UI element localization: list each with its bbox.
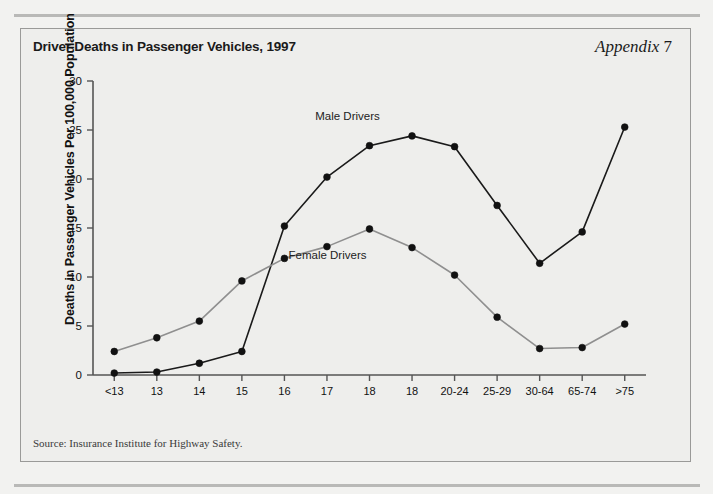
data-point-marker bbox=[366, 142, 373, 149]
appendix-word: Appendix bbox=[595, 37, 659, 56]
x-axis-tick-label: 17 bbox=[321, 385, 333, 397]
line-chart: Deaths in Passenger Vehicles Per 100,000… bbox=[21, 65, 692, 421]
data-point-marker bbox=[366, 226, 373, 233]
data-point-marker bbox=[536, 345, 543, 352]
chart-panel: Driver Deaths in Passenger Vehicles, 199… bbox=[20, 28, 691, 462]
data-point-marker bbox=[451, 272, 458, 279]
data-point-marker bbox=[579, 229, 586, 236]
x-axis-tick-label: <13 bbox=[105, 385, 124, 397]
x-axis-tick-label: 18 bbox=[406, 385, 418, 397]
x-axis-tick-label: >75 bbox=[615, 385, 634, 397]
x-axis-tick-label: 25-29 bbox=[483, 385, 511, 397]
series-annotation-female: Female Drivers bbox=[289, 249, 367, 261]
top-divider-rule bbox=[14, 14, 700, 17]
appendix-label: Appendix 7 bbox=[595, 37, 672, 57]
y-axis-tick-label: 0 bbox=[76, 369, 82, 381]
x-axis-tick-label: 15 bbox=[236, 385, 248, 397]
appendix-number: 7 bbox=[664, 37, 673, 56]
x-axis-tick-label: 16 bbox=[278, 385, 290, 397]
series-line bbox=[114, 127, 624, 373]
data-point-marker bbox=[196, 318, 203, 325]
bottom-divider-rule bbox=[14, 484, 700, 487]
data-point-marker bbox=[579, 344, 586, 351]
data-point-marker bbox=[238, 348, 245, 355]
data-point-marker bbox=[238, 278, 245, 285]
x-axis-tick-label: 30-64 bbox=[526, 385, 554, 397]
source-note: Source: Insurance Institute for Highway … bbox=[33, 437, 242, 449]
data-point-marker bbox=[494, 314, 501, 321]
data-point-marker bbox=[111, 348, 118, 355]
data-point-marker bbox=[281, 255, 288, 262]
data-point-marker bbox=[621, 124, 628, 131]
data-point-marker bbox=[621, 321, 628, 328]
x-axis-tick-label: 65-74 bbox=[568, 385, 596, 397]
data-point-marker bbox=[281, 223, 288, 230]
page-canvas: Driver Deaths in Passenger Vehicles, 199… bbox=[0, 0, 713, 494]
chart-svg: 051015202530<131314151617181820-2425-293… bbox=[21, 65, 692, 421]
series-line bbox=[114, 229, 624, 352]
x-axis-tick-label: 13 bbox=[151, 385, 163, 397]
x-axis-tick-label: 20-24 bbox=[441, 385, 469, 397]
data-point-marker bbox=[451, 143, 458, 150]
x-axis-tick-label: 18 bbox=[363, 385, 375, 397]
data-point-marker bbox=[324, 174, 331, 181]
data-point-marker bbox=[153, 334, 160, 341]
data-point-marker bbox=[409, 132, 416, 139]
data-point-marker bbox=[409, 244, 416, 251]
data-point-marker bbox=[153, 369, 160, 376]
data-point-marker bbox=[536, 260, 543, 267]
data-point-marker bbox=[494, 202, 501, 209]
x-axis-tick-label: 14 bbox=[193, 385, 205, 397]
series-annotation-male: Male Drivers bbox=[315, 110, 380, 122]
data-point-marker bbox=[111, 370, 118, 377]
y-axis-title: Deaths in Passenger Vehicles Per 100,000… bbox=[63, 35, 77, 325]
data-point-marker bbox=[196, 360, 203, 367]
